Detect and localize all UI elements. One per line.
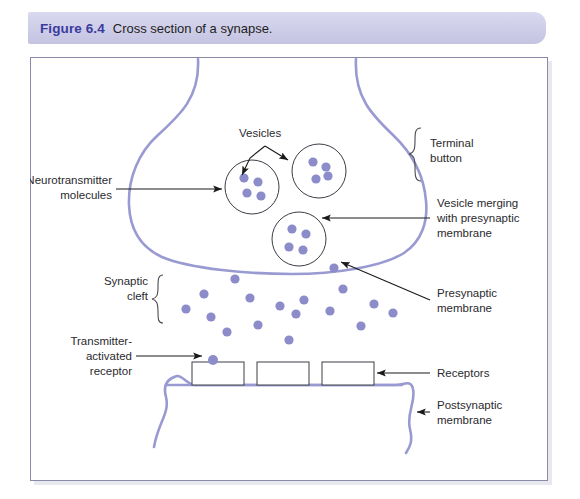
label-receptors: Receptors — [437, 367, 490, 379]
synaptic-cleft-brace — [152, 275, 163, 323]
label-transmitter-receptor-line2: activated — [86, 350, 132, 362]
neurotransmitter-dot — [206, 312, 215, 321]
label-synaptic-cleft-line2: cleft — [127, 290, 149, 302]
vesicle-circle — [225, 160, 279, 214]
label-postsynaptic-line1: Postsynaptic — [437, 399, 502, 411]
postsynaptic-membrane-outline — [154, 376, 414, 453]
neurotransmitter-dot — [299, 295, 308, 304]
vesicle-dot — [311, 174, 320, 183]
neurotransmitter-dot — [253, 320, 262, 329]
label-presynaptic-line1: Presynaptic — [437, 287, 497, 299]
vesicle-dot — [242, 188, 251, 197]
figure-number: Figure 6.4 — [40, 21, 105, 36]
vesicle-dot — [321, 162, 330, 171]
vesicle-merging-circle — [272, 212, 326, 266]
neurotransmitter-dot — [181, 304, 190, 313]
label-vesicle-merging-line1: Vesicle merging — [437, 197, 518, 209]
neurotransmitter-dot — [291, 309, 300, 318]
label-terminal-button-line1: Terminal — [430, 137, 473, 149]
neurotransmitter-dot — [275, 301, 284, 310]
label-terminal-button-line2: button — [430, 152, 462, 164]
vesicle-dot — [308, 157, 317, 166]
synaptic-cleft-dots — [181, 263, 397, 344]
neurotransmitter-dot — [388, 308, 397, 317]
neurotransmitter-dot — [199, 289, 208, 298]
figure-caption-text: Cross section of a synapse. — [113, 21, 273, 36]
vesicle-group — [225, 144, 346, 266]
vesicles-leader-right — [265, 146, 288, 160]
receptor-group — [192, 355, 374, 385]
receptor-box — [322, 362, 374, 385]
neurotransmitter-dot — [245, 293, 254, 302]
label-synaptic-cleft-line1: Synaptic — [104, 275, 148, 287]
vesicle-dot — [287, 224, 296, 233]
neurotransmitter-dot — [329, 263, 338, 272]
vesicle-dot — [284, 242, 293, 251]
label-vesicle-merging-line3: membrane — [437, 227, 492, 239]
neurotransmitter-dot — [230, 274, 239, 283]
receptor-box — [192, 362, 244, 385]
vesicle-dot — [323, 171, 332, 180]
figure-root: Figure 6.4 Cross section of a synapse. — [0, 0, 580, 499]
neurotransmitter-dot — [369, 299, 378, 308]
synapse-diagram: Vesicles Neurotransmitter molecules Term… — [30, 57, 548, 481]
label-neurotransmitter-line1: Neurotransmitter — [30, 174, 112, 186]
label-presynaptic-line2: membrane — [437, 302, 492, 314]
figure-caption-bar: Figure 6.4 Cross section of a synapse. — [28, 12, 546, 44]
vesicle-dot — [253, 177, 262, 186]
receptor-box — [257, 362, 309, 385]
vesicle-circle — [292, 144, 346, 198]
label-neurotransmitter-line2: molecules — [60, 189, 112, 201]
neurotransmitter-dot — [325, 306, 334, 315]
neurotransmitter-dot — [356, 321, 365, 330]
vesicle-dot — [298, 245, 307, 254]
label-transmitter-receptor-line3: receptor — [90, 365, 132, 377]
vesicle-dot — [239, 173, 248, 182]
neurotransmitter-dot — [222, 327, 231, 336]
vesicle-dot — [256, 191, 265, 200]
bound-transmitter-dot — [208, 355, 218, 365]
neurotransmitter-dot — [338, 284, 347, 293]
label-vesicle-merging-line2: with presynaptic — [436, 212, 520, 224]
neurotransmitter-dot — [284, 335, 293, 344]
label-transmitter-receptor-line1: Transmitter- — [70, 335, 132, 347]
presynaptic-membrane-leader — [341, 262, 430, 300]
label-postsynaptic-line2: membrane — [437, 414, 492, 426]
vesicle-dot — [301, 229, 310, 238]
label-vesicles: Vesicles — [239, 127, 281, 139]
